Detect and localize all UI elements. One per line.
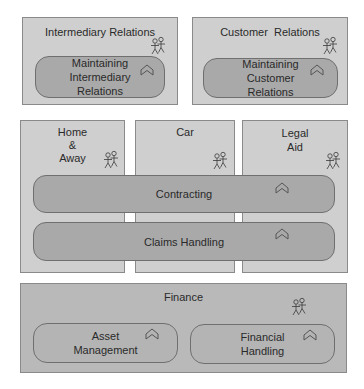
process-asset-management[interactable]: Asset Management (33, 323, 178, 363)
chevron-up-arrow-icon (275, 228, 289, 240)
chevron-up-arrow-icon (310, 64, 324, 76)
column-title: Car (136, 126, 234, 139)
chevron-up-arrow-icon (145, 328, 159, 340)
actor-pair-icon (101, 150, 121, 170)
process-contracting[interactable]: Contracting (33, 175, 335, 213)
actor-pair-icon (148, 36, 168, 56)
process-maintaining-intermediary-relations[interactable]: Maintaining Intermediary Relations (35, 56, 165, 98)
process-label: Maintaining Customer Relations (242, 57, 298, 99)
process-financial-handling[interactable]: Financial Handling (190, 324, 335, 364)
column-title: Legal Aid (243, 126, 347, 154)
actor-pair-icon (289, 297, 309, 317)
process-claims-handling[interactable]: Claims Handling (33, 222, 335, 261)
process-label: Asset Management (73, 329, 137, 357)
process-label: Claims Handling (144, 235, 224, 249)
actor-pair-icon (323, 151, 343, 171)
process-label: Contracting (156, 187, 212, 201)
chevron-up-arrow-icon (275, 182, 289, 194)
process-maintaining-customer-relations[interactable]: Maintaining Customer Relations (203, 58, 338, 98)
process-label: Maintaining Intermediary Relations (69, 56, 130, 98)
actor-pair-icon (210, 151, 230, 171)
actor-pair-icon (320, 36, 340, 56)
customer-relations-box: Customer Relations Maintaining Customer … (192, 17, 348, 105)
chevron-up-arrow-icon (303, 329, 317, 341)
finance-box: Finance Asset Management Financial Handl… (20, 283, 347, 373)
chevron-up-arrow-icon (140, 64, 154, 76)
intermediary-relations-box: Intermediary Relations Maintaining Inter… (22, 17, 178, 105)
process-label: Financial Handling (240, 330, 284, 358)
